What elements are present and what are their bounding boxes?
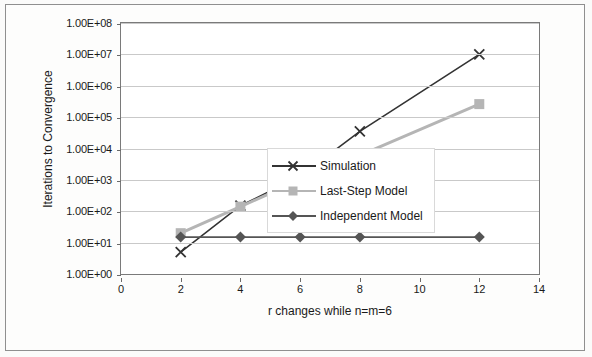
y-axis-tick-label: 1.00E+07 bbox=[66, 48, 112, 60]
y-axis-tick-label: 1.00E+04 bbox=[66, 143, 112, 155]
y-axis-tick-label: 1.00E+03 bbox=[66, 174, 112, 186]
square-marker-icon bbox=[287, 185, 299, 197]
diamond-marker-icon bbox=[287, 210, 299, 222]
y-axis-title-container: Iterations to Convergence bbox=[8, 22, 32, 275]
gridline bbox=[121, 86, 539, 87]
x-axis-title: r changes while n=m=6 bbox=[120, 304, 540, 318]
x-axis-tick bbox=[181, 278, 182, 282]
y-axis-tick bbox=[117, 87, 121, 88]
x-axis-tick bbox=[121, 278, 122, 282]
y-axis-tick-label: 1.00E+01 bbox=[66, 237, 112, 249]
x-axis-tick-label: 8 bbox=[357, 283, 363, 295]
y-axis-tick bbox=[117, 24, 121, 25]
x-marker-icon bbox=[287, 160, 299, 172]
x-axis-tick-label: 12 bbox=[473, 283, 485, 295]
y-axis-tick-label: 1.00E+00 bbox=[66, 268, 112, 280]
y-axis-tick bbox=[117, 212, 121, 213]
x-axis-tick-label: 2 bbox=[178, 283, 184, 295]
series-independent-model bbox=[175, 232, 485, 243]
x-axis-tick-label: 0 bbox=[118, 283, 124, 295]
y-axis-tick bbox=[117, 150, 121, 151]
gridline bbox=[121, 117, 539, 118]
y-axis-tick bbox=[117, 55, 121, 56]
gridline bbox=[121, 243, 539, 244]
legend-swatch-simulation bbox=[272, 159, 316, 173]
y-axis-tick-labels: 1.00E+001.00E+011.00E+021.00E+031.00E+04… bbox=[30, 22, 116, 275]
legend-swatch-last-step-model bbox=[272, 184, 316, 198]
legend-label-last-step-model: Last-Step Model bbox=[316, 184, 407, 198]
x-axis-tick-label: 14 bbox=[533, 283, 545, 295]
x-axis-tick bbox=[240, 278, 241, 282]
x-axis-tick-labels: 02468101214 bbox=[120, 278, 540, 296]
y-axis-tick-label: 1.00E+05 bbox=[66, 111, 112, 123]
x-axis-tick-label: 4 bbox=[237, 283, 243, 295]
legend-label-independent-model: Independent Model bbox=[316, 209, 423, 223]
chart-legend: Simulation Last-Step Model Independent M… bbox=[267, 148, 435, 233]
legend-item-last-step-model: Last-Step Model bbox=[272, 178, 430, 203]
x-axis-tick bbox=[420, 278, 421, 282]
legend-item-independent-model: Independent Model bbox=[272, 203, 430, 228]
x-axis-tick bbox=[479, 278, 480, 282]
y-axis-tick-label: 1.00E+02 bbox=[66, 205, 112, 217]
y-axis-tick bbox=[117, 118, 121, 119]
y-axis-tick bbox=[117, 275, 121, 276]
y-axis-tick bbox=[117, 244, 121, 245]
legend-item-simulation: Simulation bbox=[272, 153, 430, 178]
x-axis-tick bbox=[300, 278, 301, 282]
x-axis-tick-label: 10 bbox=[413, 283, 425, 295]
x-axis-tick bbox=[539, 278, 540, 282]
y-axis-tick bbox=[117, 181, 121, 182]
legend-swatch-independent-model bbox=[272, 209, 316, 223]
gridline bbox=[121, 23, 539, 24]
legend-label-simulation: Simulation bbox=[316, 159, 376, 173]
y-axis-tick-label: 1.00E+06 bbox=[66, 80, 112, 92]
x-axis-tick bbox=[360, 278, 361, 282]
gridline bbox=[121, 54, 539, 55]
x-axis-tick-label: 6 bbox=[297, 283, 303, 295]
y-axis-tick-label: 1.00E+08 bbox=[66, 17, 112, 29]
chart-image: Iterations to Convergence 1.00E+001.00E+… bbox=[0, 0, 592, 357]
